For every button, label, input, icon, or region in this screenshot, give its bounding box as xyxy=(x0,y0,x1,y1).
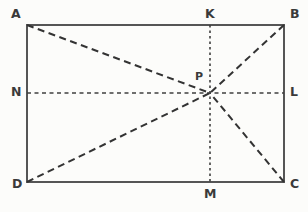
label-c: C xyxy=(290,178,299,191)
geometry-figure xyxy=(0,0,308,212)
segment-bp xyxy=(210,25,284,93)
label-m: M xyxy=(204,188,217,201)
label-a: A xyxy=(11,8,21,21)
segment-dp xyxy=(27,93,210,182)
segment-cp xyxy=(210,93,284,182)
label-k: K xyxy=(205,8,215,21)
label-p: P xyxy=(195,71,203,82)
rectangle-abcd xyxy=(27,25,284,182)
segment-ap xyxy=(27,25,210,93)
label-d: D xyxy=(12,178,23,191)
label-b: B xyxy=(290,8,300,21)
label-n: N xyxy=(11,86,22,99)
diagram-canvas: A B C D K M N L P xyxy=(0,0,308,212)
label-l: L xyxy=(290,86,298,99)
